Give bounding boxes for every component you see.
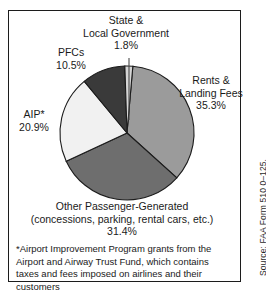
label-aip: AIP* 20.9% — [4, 108, 64, 133]
label-other-passenger-generated: Other Passenger-Generated (concessions, … — [10, 200, 234, 238]
pie-chart-figure: State & Local Government 1.8% PFCs 10.5%… — [0, 0, 266, 294]
label-rents-landing-fees: Rents & Landing Fees 35.3% — [176, 74, 246, 112]
source-credit-text: Source: FAA Form 510 0–125. — [258, 159, 266, 276]
pie-slices — [60, 66, 194, 200]
footnote-aip: *Airport Improvement Program grants from… — [16, 243, 234, 293]
source-credit: Source: FAA Form 510 0–125. — [243, 0, 265, 294]
label-pfcs: PFCs 10.5% — [40, 46, 102, 71]
